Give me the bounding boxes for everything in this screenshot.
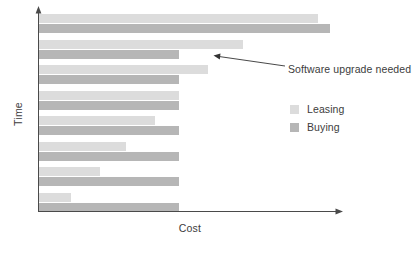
bar-buying-3 [39,75,179,84]
legend-item-buying: Buying [290,118,344,136]
bar-buying-6 [39,152,179,161]
legend-item-label: Leasing [307,103,344,115]
legend-item-label: Buying [307,121,340,133]
annotation-label: Software upgrade needed [288,63,411,75]
x-axis-title: Cost [150,222,230,234]
legend-swatch-icon [290,105,299,114]
plot-area [0,0,418,253]
bar-leasing-6 [39,142,126,151]
bar-leasing-8 [39,193,71,202]
legend: Leasing Buying [290,100,344,136]
bar-buying-5 [39,126,179,135]
bar-leasing-7 [39,167,100,176]
bar-leasing-1 [39,14,318,23]
bar-leasing-4 [39,91,179,100]
chart-container: Time Cost Software upgrade needed Leasin… [0,0,418,253]
bar-leasing-5 [39,116,155,125]
y-axis-title: Time [12,94,24,134]
bar-buying-1 [39,24,330,33]
bar-buying-7 [39,177,179,186]
bar-leasing-3 [39,65,208,74]
legend-swatch-icon [290,123,299,132]
bar-buying-2 [39,50,179,59]
bar-buying-4 [39,101,179,110]
bar-buying-8 [39,203,179,212]
legend-item-leasing: Leasing [290,100,344,118]
bar-leasing-2 [39,40,243,49]
